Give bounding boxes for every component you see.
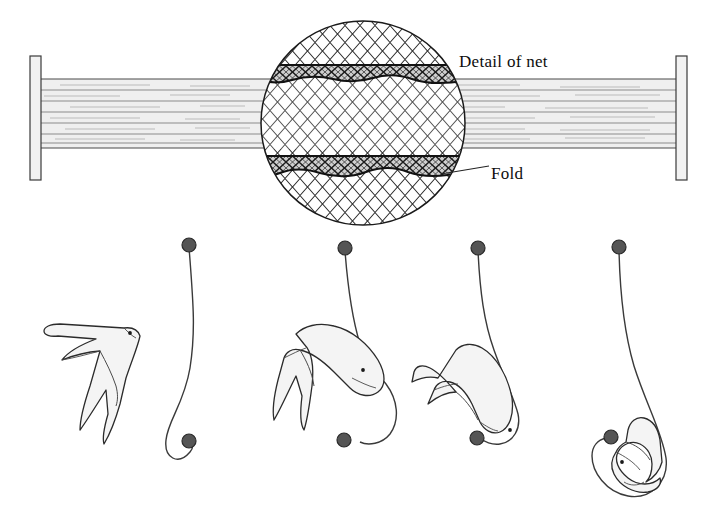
stage-4-bird-in-pocket [592,240,666,497]
stage-2-bird-strikes-net [273,241,396,447]
net-knot-bottom [604,430,618,444]
net-pole-left [30,56,41,180]
net-knot-bottom [182,434,196,448]
net-knot-bottom [470,431,484,445]
net-line [166,247,194,459]
net-pole-right [676,56,687,180]
net-knot-bottom [337,433,351,447]
net-knot-top [612,240,626,254]
net-knot-top [182,238,196,252]
mist-net-panel [30,15,687,235]
label-detail-of-net: Detail of net [459,52,548,72]
bird-eye [128,331,132,335]
net-detail-circle [255,15,475,235]
bird-eye [508,428,512,432]
bird-eye [361,368,365,372]
net-knot-top [338,241,352,255]
net-knot-top [471,241,485,255]
net-diagram-svg [0,0,713,526]
stage-1-bird-in-flight [44,238,196,459]
figure-canvas: Detail of net Fold [0,0,713,526]
label-fold: Fold [491,164,523,184]
bird-stage-4 [612,418,662,493]
bird-stage-1 [44,324,140,444]
stage-3-bird-sliding [412,241,519,445]
bird-eye [620,460,624,464]
bird-stage-2 [273,324,384,430]
